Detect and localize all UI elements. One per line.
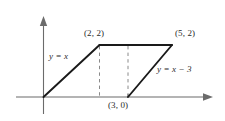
y-axis bbox=[40, 16, 47, 114]
label-point-2-2: (2, 2) bbox=[84, 29, 104, 38]
label-point-3-0: (3, 0) bbox=[108, 101, 128, 110]
dashed-guides bbox=[100, 46, 129, 96]
x-axis-arrowhead-icon bbox=[203, 93, 213, 100]
label-point-5-2: (5, 2) bbox=[175, 29, 195, 38]
graph-figure: (2, 2) (5, 2) (3, 0) y = x y = x − 3 bbox=[0, 0, 225, 121]
label-equation-y-equals-x-minus-3: y = x − 3 bbox=[157, 65, 192, 74]
label-equation-y-equals-x: y = x bbox=[49, 52, 68, 61]
y-axis-arrowhead-icon bbox=[40, 16, 47, 26]
